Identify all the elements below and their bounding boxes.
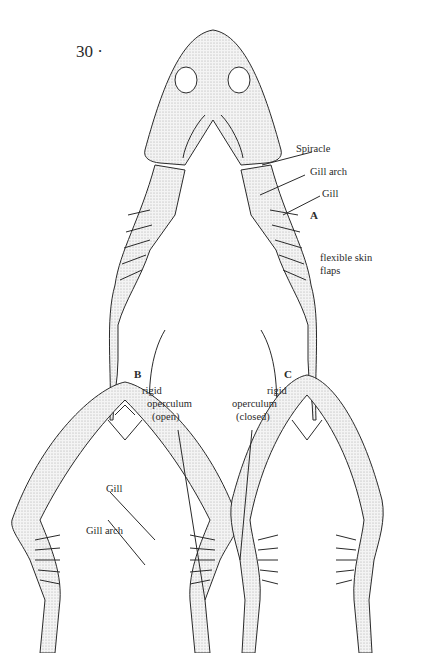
panel-letter-c: C — [284, 368, 292, 380]
gill-diagram — [0, 0, 427, 653]
label-gill-arch-a: Gill arch — [310, 165, 347, 178]
label-operculum-b: operculum — [147, 397, 192, 410]
eye-right — [228, 67, 250, 93]
label-flexible-skin-flaps-1: flexible skin — [320, 251, 372, 264]
panel-a-drawing — [109, 30, 320, 420]
label-gill-arch-b: Gill arch — [86, 524, 123, 537]
panel-letter-a: A — [310, 209, 318, 221]
label-gill-b: Gill — [106, 482, 122, 495]
panel-b-drawing — [12, 382, 239, 653]
label-rigid-c: rigid — [267, 384, 287, 397]
label-operculum-c: operculum — [232, 397, 277, 410]
label-spiracle: Spiracle — [296, 142, 330, 155]
eye-left — [175, 67, 197, 93]
label-closed: (closed) — [236, 410, 270, 423]
panel-letter-b: B — [134, 368, 141, 380]
label-gill-a: Gill — [322, 187, 338, 200]
label-flexible-skin-flaps-2: flaps — [320, 264, 340, 277]
label-open: (open) — [152, 410, 179, 423]
label-rigid-b: rigid — [142, 384, 162, 397]
